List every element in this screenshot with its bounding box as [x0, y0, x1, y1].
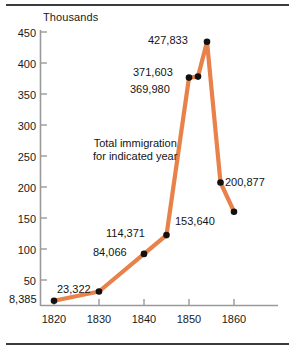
data-label-1857: 200,877: [225, 176, 265, 188]
data-label-1860: 153,640: [175, 215, 215, 227]
data-label-1830: 23,322: [57, 283, 91, 295]
data-label-1852: 371,603: [133, 66, 173, 78]
data-point-1850: [186, 74, 193, 81]
data-point-1854: [204, 39, 211, 46]
data-label-1820: 8,385: [9, 293, 37, 305]
chart-annotation-line-1: Total immigration: [93, 137, 177, 150]
immigration-series-line: [54, 42, 234, 301]
data-label-1854: 427,833: [148, 34, 188, 46]
x-tick-marks: [54, 299, 234, 306]
data-point-1860: [231, 208, 238, 215]
data-point-1857: [217, 179, 224, 186]
data-point-1820: [51, 298, 58, 305]
y-tick-marks: [41, 32, 48, 280]
data-label-1840: 84,066: [93, 246, 127, 258]
data-point-1852: [195, 73, 202, 80]
data-label-1845: 114,371: [106, 227, 145, 239]
data-point-1830: [96, 288, 103, 295]
data-label-1850: 369,980: [130, 83, 170, 95]
data-point-1840: [141, 251, 148, 258]
chart-annotation: Total immigration for indicated year: [93, 137, 177, 163]
chart-annotation-line-2: for indicated year: [93, 150, 177, 163]
data-point-1845: [163, 232, 170, 239]
immigration-line-chart-figure: Thousands 450 400 350 300 250 200 150 10…: [0, 0, 295, 351]
